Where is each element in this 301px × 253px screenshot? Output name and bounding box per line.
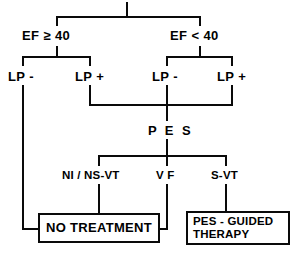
pes-guided-label-line1: PES - GUIDED	[193, 215, 273, 228]
clinical-decision-flowchart: EF ≥ 40 EF < 40 LP - LP + LP - LP + P E …	[0, 0, 301, 253]
outcome-vf-branch-connector	[166, 155, 168, 166]
lp-negative-right-down-connector	[166, 85, 168, 106]
terminal-box-no-treatment: NO TREATMENT	[38, 213, 160, 243]
root-stem-connector	[126, 2, 128, 17]
node-outcome-ni-nsvt: NI / NS-VT	[62, 170, 120, 182]
node-outcome-svt: S-VT	[211, 170, 238, 182]
pes-to-outcomes-stem-connector	[166, 139, 168, 156]
outcome-svt-branch-connector	[225, 155, 227, 166]
node-ef-high: EF ≥ 40	[22, 29, 70, 42]
ef-high-split-horizontal-connector	[22, 56, 91, 58]
node-lp-positive-left: LP +	[75, 70, 104, 83]
terminal-box-pes-guided-therapy: PES - GUIDED THERAPY	[186, 211, 290, 245]
node-pes: P E S	[148, 124, 193, 137]
node-outcome-vf: V F	[156, 170, 175, 182]
no-treatment-label: NO TREATMENT	[46, 221, 152, 236]
node-ef-low: EF < 40	[170, 29, 219, 42]
vf-to-no-treatment-down-connector	[166, 184, 168, 229]
outcome-split-horizontal-connector	[98, 155, 226, 157]
root-split-horizontal-connector	[56, 16, 201, 18]
ef-low-split-horizontal-connector	[166, 56, 233, 58]
node-lp-positive-right: LP +	[217, 70, 246, 83]
svt-to-pes-guided-connector	[225, 184, 227, 212]
root-to-ef-high-connector	[56, 16, 58, 26]
ni-nsvt-to-no-treatment-connector	[98, 184, 100, 214]
ef-high-to-lp-pos-connector	[89, 56, 91, 66]
node-lp-negative-left: LP -	[8, 70, 34, 83]
lp-negative-left-down-connector	[22, 85, 24, 229]
lp-positive-left-down-connector	[89, 85, 91, 106]
node-lp-negative-right: LP -	[152, 70, 178, 83]
ef-low-to-lp-pos-connector	[231, 56, 233, 66]
pes-stem-connector	[166, 104, 168, 121]
ef-high-to-lp-neg-connector	[22, 56, 24, 66]
pes-merge-horizontal-connector	[89, 104, 233, 106]
outcome-ni-nsvt-branch-connector	[98, 155, 100, 166]
ef-low-to-lp-neg-connector	[166, 56, 168, 66]
pes-guided-label-line2: THERAPY	[193, 228, 249, 241]
lp-positive-right-down-connector	[231, 85, 233, 106]
root-to-ef-low-connector	[199, 16, 201, 26]
